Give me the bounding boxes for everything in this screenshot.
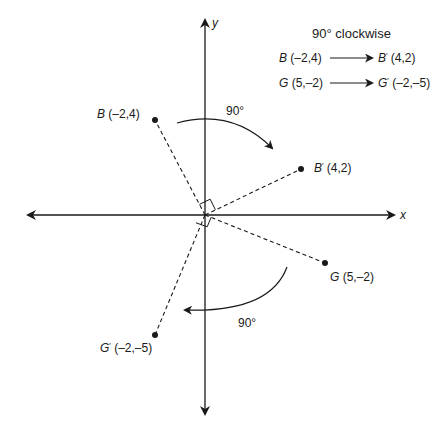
rotation-arc-lower — [185, 267, 287, 310]
point-G-prime — [152, 332, 158, 338]
svg-text:G (5,–2): G (5,–2) — [279, 76, 323, 90]
legend-title: 90° clockwise — [312, 26, 391, 41]
mapping-row-G: G (5,–2) G′ (–2,–5) — [279, 76, 430, 90]
label-G: G (5,–2) — [330, 270, 374, 284]
segment-origin-G-prime — [155, 215, 205, 335]
rotation-diagram: x y B (–2,4) B′ (4,2) G (5,–2) G′ (–2,–5… — [0, 0, 444, 434]
svg-text:G′ (–2,–5): G′ (–2,–5) — [378, 76, 430, 90]
point-B-prime — [298, 166, 304, 172]
point-G — [322, 260, 328, 266]
label-G-prime: G′ (–2,–5) — [100, 341, 152, 355]
right-angle-markers — [196, 199, 215, 227]
right-angle-lower — [196, 217, 211, 226]
rotation-arc-upper — [177, 119, 272, 148]
svg-text:B′ (4,2): B′ (4,2) — [378, 51, 416, 65]
mapping-row-B: B (–2,4) B′ (4,2) — [279, 51, 416, 65]
segment-origin-G — [205, 215, 325, 263]
rotation-label-lower: 90° — [238, 316, 256, 330]
segment-origin-B — [155, 120, 205, 215]
mapping-legend: 90° clockwise B (–2,4) B′ (4,2) G (5,–2)… — [279, 26, 430, 90]
point-B — [152, 117, 158, 123]
svg-text:B (–2,4): B (–2,4) — [279, 51, 322, 65]
label-B-prime: B′ (4,2) — [314, 161, 352, 175]
segment-origin-B-prime — [205, 169, 301, 215]
rotation-label-upper: 90° — [226, 104, 244, 118]
dashed-segments — [155, 120, 325, 335]
x-axis-label: x — [399, 208, 407, 222]
y-axis-label: y — [211, 16, 219, 30]
label-B: B (–2,4) — [97, 107, 140, 121]
